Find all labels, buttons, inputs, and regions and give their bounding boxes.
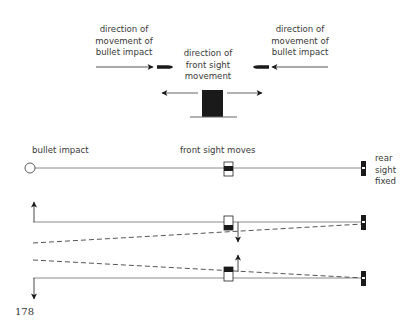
front-sight-icon [224,267,233,281]
sight-line-aligned [25,161,366,176]
bullet-impact-circle-icon [25,163,35,173]
sight-line-front-sight-up [33,202,366,243]
rear-sight-icon [361,271,366,286]
bullet-icon [157,65,173,69]
rear-sight-icon [361,161,366,176]
sight-line-front-sight-down [33,255,366,299]
rear-sight-icon [361,215,366,230]
front-sight-icon [224,216,233,230]
sight-alignment-diagram [0,0,416,333]
front-sight-block-icon [190,90,237,117]
bullet-icon [253,65,269,69]
front-sight-icon [224,162,233,176]
